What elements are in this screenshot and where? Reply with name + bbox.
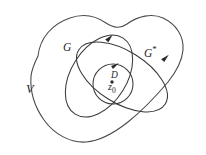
region-label-g-star-asterisk: * bbox=[152, 44, 157, 54]
region-outline-g-star bbox=[65, 28, 179, 126]
region-label-g: G bbox=[63, 42, 71, 54]
math-set-diagram: V G G* D z0 bbox=[0, 0, 206, 155]
region-label-g-star: G* bbox=[144, 45, 157, 59]
point-label-z0-subscript: 0 bbox=[112, 86, 116, 95]
region-outline-g bbox=[51, 23, 146, 129]
diagram-canvas bbox=[0, 0, 206, 155]
region-label-d: D bbox=[111, 71, 118, 81]
point-label-z0: z0 bbox=[108, 82, 116, 95]
region-outline-v bbox=[31, 16, 183, 143]
orientation-arrow-g-star bbox=[161, 55, 169, 63]
region-label-v: V bbox=[26, 83, 34, 96]
